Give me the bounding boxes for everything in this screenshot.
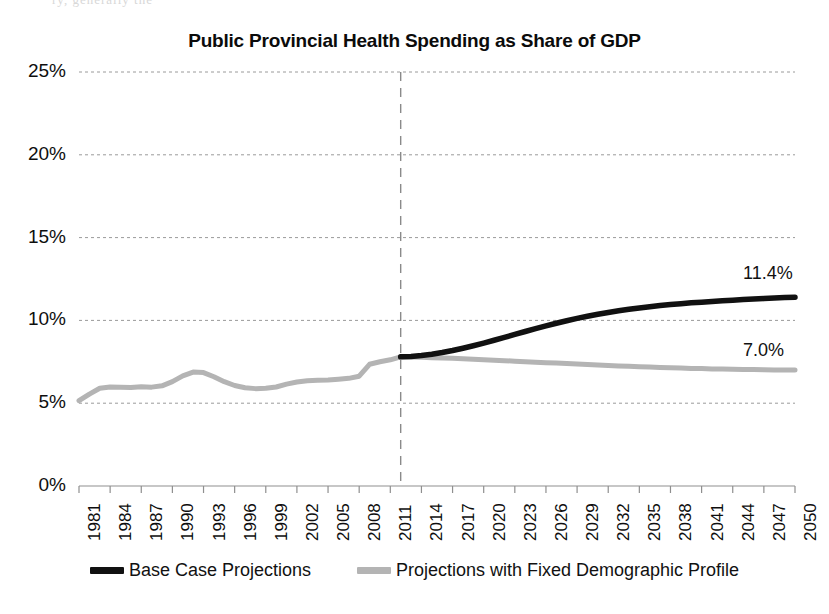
series-lines-group bbox=[79, 297, 795, 401]
y-tick-label-10%: 10% bbox=[2, 308, 66, 330]
x-tick-label-1993: 1993 bbox=[210, 503, 230, 541]
y-tick-label-5%: 5% bbox=[2, 391, 66, 413]
x-tick-label-2017: 2017 bbox=[459, 503, 479, 541]
x-tick-label-2032: 2032 bbox=[614, 503, 634, 541]
x-tick-label-2011: 2011 bbox=[396, 504, 416, 541]
x-tick-label-2020: 2020 bbox=[490, 503, 510, 541]
x-tick-label-2014: 2014 bbox=[427, 503, 447, 541]
legend-label: Projections with Fixed Demographic Profi… bbox=[396, 560, 739, 581]
x-tick-label-2029: 2029 bbox=[583, 503, 603, 541]
x-tick-label-2026: 2026 bbox=[552, 503, 572, 541]
x-tick-label-1987: 1987 bbox=[147, 503, 167, 541]
x-tick-label-1999: 1999 bbox=[272, 503, 292, 541]
x-tick-label-1996: 1996 bbox=[241, 503, 261, 541]
legend-entry-base-case[interactable]: Base Case Projections bbox=[90, 560, 311, 581]
x-tick-label-2002: 2002 bbox=[303, 503, 323, 541]
x-tick-label-2035: 2035 bbox=[645, 503, 665, 541]
y-tick-label-25%: 25% bbox=[2, 60, 66, 82]
x-tick-label-2050: 2050 bbox=[801, 503, 821, 541]
y-tick-label-15%: 15% bbox=[2, 226, 66, 248]
base-case-endpoint-label: 11.4% bbox=[743, 263, 793, 284]
chart-container: ry, generally the Public Provincial Heal… bbox=[0, 0, 829, 614]
x-tick-label-2038: 2038 bbox=[676, 503, 696, 541]
x-tick-label-2044: 2044 bbox=[739, 503, 759, 541]
x-tick-label-1990: 1990 bbox=[178, 503, 198, 541]
legend-swatch-icon bbox=[90, 567, 124, 574]
series-line-fixed-demographic bbox=[79, 357, 795, 401]
x-tick-label-2023: 2023 bbox=[521, 503, 541, 541]
x-tick-label-2005: 2005 bbox=[334, 503, 354, 541]
x-tick-label-2047: 2047 bbox=[770, 503, 790, 541]
x-tick-label-2008: 2008 bbox=[365, 503, 385, 541]
fixed-demographic-endpoint-label: 7.0% bbox=[743, 340, 784, 361]
legend-swatch-icon bbox=[357, 567, 391, 574]
legend-label: Base Case Projections bbox=[129, 560, 311, 581]
x-tick-label-1984: 1984 bbox=[116, 503, 136, 541]
y-tick-label-20%: 20% bbox=[2, 143, 66, 165]
x-tick-label-1981: 1981 bbox=[85, 503, 105, 541]
x-tickmarks-group bbox=[79, 486, 795, 493]
legend-entry-fixed-demographic[interactable]: Projections with Fixed Demographic Profi… bbox=[357, 560, 739, 581]
x-tick-label-2041: 2041 bbox=[708, 503, 728, 541]
series-line-base-case bbox=[401, 297, 795, 357]
y-tick-label-0%: 0% bbox=[2, 474, 66, 496]
chart-legend: Base Case ProjectionsProjections with Fi… bbox=[0, 560, 829, 581]
